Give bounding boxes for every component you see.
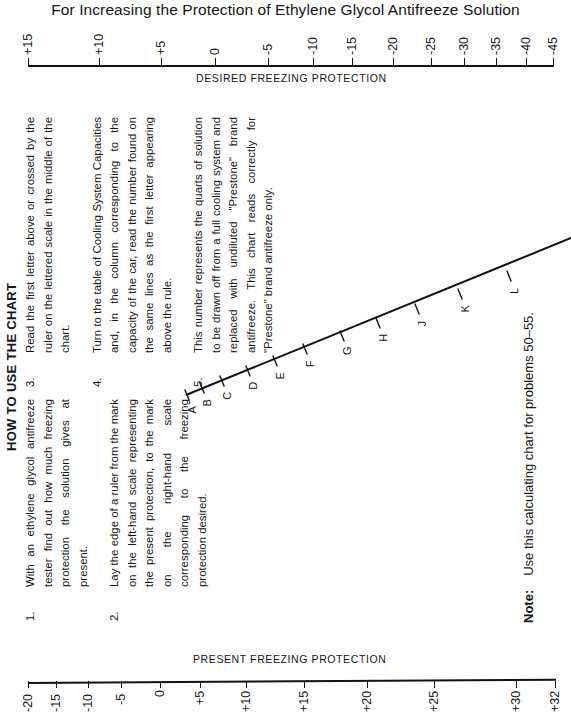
letter-tick-label: K [459, 304, 471, 312]
letter-tick-label: L [508, 288, 520, 294]
letter-tick [376, 317, 381, 328]
letter-tick-label: A [186, 405, 198, 413]
letter-tick-label: C [221, 392, 233, 400]
letter-tick-label: J [416, 321, 428, 327]
letter-tick [458, 288, 463, 299]
letter-tick-label: H [377, 334, 389, 342]
letter-tick-label: B [201, 399, 213, 406]
lettered-scale: ABCDEFGHJKL [0, 0, 571, 713]
letter-tick-label: E [274, 372, 286, 379]
letter-tick-label: D [247, 382, 259, 390]
letter-tick [507, 270, 512, 281]
letter-tick-label: G [341, 347, 353, 356]
letter-tick-label: F [304, 360, 316, 367]
letter-tick [415, 303, 420, 314]
